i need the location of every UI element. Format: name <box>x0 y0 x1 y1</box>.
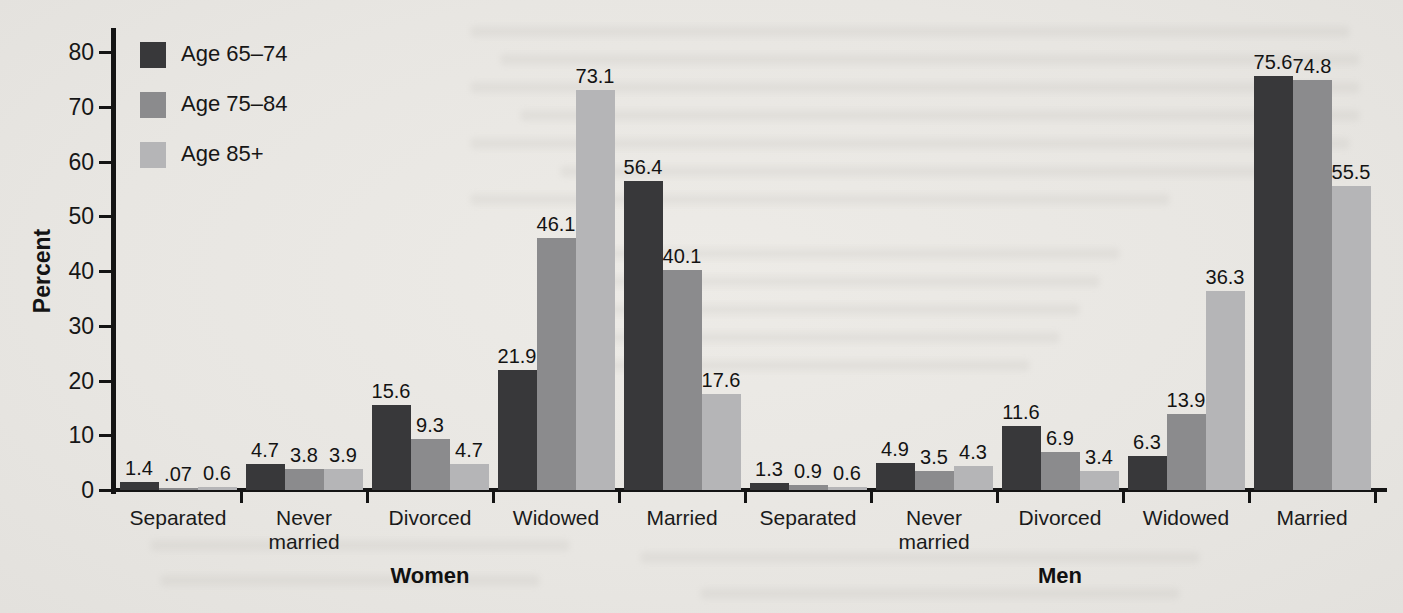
bar-value-label: 4.7 <box>433 439 505 462</box>
category-label: Divorced <box>367 506 493 530</box>
bar-value-label: 17.6 <box>685 369 757 392</box>
legend-item-label: Age 75–84 <box>181 90 287 118</box>
y-axis-tick-label: 70 <box>36 94 94 120</box>
x-axis-group-tick <box>744 492 747 503</box>
bar-value-label: 36.3 <box>1189 266 1261 289</box>
y-axis-tick-label: 10 <box>36 422 94 448</box>
bar-value-label: 4.3 <box>937 441 1009 464</box>
bar-value-label: 0.6 <box>811 462 883 485</box>
y-axis-tick <box>99 434 111 437</box>
bar-value-label: 0.6 <box>181 462 253 485</box>
x-axis-group-tick <box>240 492 243 503</box>
x-axis-group-tick <box>996 492 999 503</box>
bar-age-85+ <box>1332 186 1371 490</box>
category-label: Married <box>619 506 745 530</box>
bar-age-65–74 <box>624 181 663 490</box>
legend-swatch <box>140 92 166 118</box>
grouped-bar-chart: 01020304050607080PercentAge 65–74Age 75–… <box>0 0 1403 613</box>
category-label: Separated <box>745 506 871 530</box>
x-axis-group-tick <box>870 492 873 503</box>
y-axis-tick <box>99 51 111 54</box>
y-axis-tick <box>99 380 111 383</box>
bar-age-75–84 <box>915 471 954 490</box>
x-axis-group-tick <box>1374 492 1377 503</box>
bar-age-65–74 <box>750 483 789 490</box>
legend-item-label: Age 65–74 <box>181 40 287 68</box>
bar-age-85+ <box>198 487 237 490</box>
legend-item-label: Age 85+ <box>181 140 264 168</box>
y-axis-tick-label: 0 <box>36 477 94 503</box>
bar-value-label: 40.1 <box>646 245 718 268</box>
category-label: Separated <box>115 506 241 530</box>
category-label: Never married <box>241 506 367 554</box>
bar-value-label: 3.4 <box>1063 446 1135 469</box>
bar-age-75–84 <box>1167 414 1206 490</box>
y-axis-tick-label: 80 <box>36 39 94 65</box>
legend-swatch <box>140 142 166 168</box>
y-axis-tick <box>99 161 111 164</box>
x-axis-group-tick <box>492 492 495 503</box>
group-section-label: Women <box>360 563 500 589</box>
bar-value-label: 11.6 <box>985 401 1057 424</box>
x-axis-group-tick <box>366 492 369 503</box>
category-label: Widowed <box>493 506 619 530</box>
y-axis-tick <box>99 106 111 109</box>
y-axis-line <box>111 28 116 494</box>
bar-age-85+ <box>828 487 867 490</box>
bar-age-85+ <box>450 464 489 490</box>
y-axis-tick <box>99 270 111 273</box>
bar-value-label: 74.8 <box>1276 55 1348 78</box>
bar-value-label: 56.4 <box>607 156 679 179</box>
bar-age-85+ <box>1080 471 1119 490</box>
y-axis-tick-label: 20 <box>36 368 94 394</box>
bar-value-label: 55.5 <box>1315 161 1387 184</box>
category-label: Never married <box>871 506 997 554</box>
bar-age-75–84 <box>789 485 828 490</box>
y-axis-tick <box>99 215 111 218</box>
bar-age-85+ <box>954 466 993 490</box>
bar-age-75–84 <box>159 488 198 490</box>
y-axis-title: Percent <box>29 213 55 329</box>
group-section-label: Men <box>990 563 1130 589</box>
bar-age-85+ <box>1206 291 1245 490</box>
category-label: Divorced <box>997 506 1123 530</box>
bar-age-75–84 <box>1293 80 1332 490</box>
scanned-page: 01020304050607080PercentAge 65–74Age 75–… <box>0 0 1403 613</box>
x-axis-group-tick <box>1248 492 1251 503</box>
y-axis-tick <box>99 489 111 492</box>
x-axis-group-tick <box>618 492 621 503</box>
bar-value-label: 15.6 <box>355 380 427 403</box>
bar-age-85+ <box>324 469 363 490</box>
bar-value-label: 9.3 <box>394 414 466 437</box>
bar-age-65–74 <box>498 370 537 490</box>
category-label: Married <box>1249 506 1375 530</box>
bar-value-label: 73.1 <box>559 65 631 88</box>
bar-age-75–84 <box>285 469 324 490</box>
x-axis-group-tick <box>1122 492 1125 503</box>
bar-age-85+ <box>702 394 741 490</box>
y-axis-tick-label: 60 <box>36 149 94 175</box>
bar-age-75–84 <box>537 238 576 490</box>
bar-age-85+ <box>576 90 615 490</box>
legend-swatch <box>140 42 166 68</box>
bar-value-label: 3.9 <box>307 444 379 467</box>
y-axis-tick <box>99 325 111 328</box>
category-label: Widowed <box>1123 506 1249 530</box>
